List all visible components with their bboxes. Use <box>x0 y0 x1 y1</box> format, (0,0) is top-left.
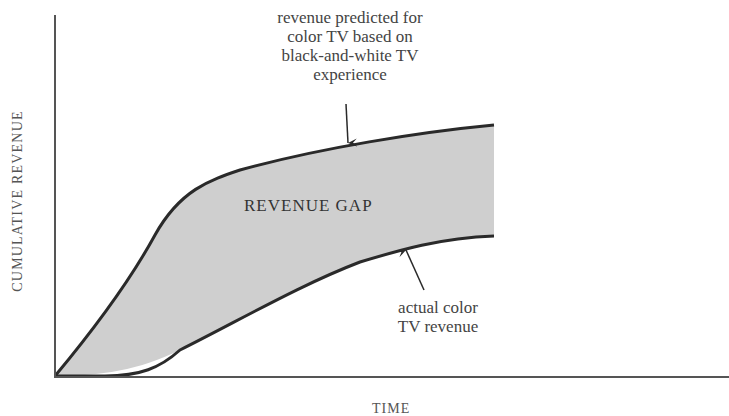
predicted-line-3: black-and-white TV <box>245 46 455 65</box>
predicted-line-1: revenue predicted for <box>245 8 455 27</box>
x-axis-label: TIME <box>372 401 410 416</box>
actual-line-2: TV revenue <box>368 317 508 336</box>
actual-line-1: actual color <box>368 298 508 317</box>
actual-annotation: actual color TV revenue <box>368 298 508 336</box>
predicted-arrow <box>346 104 348 143</box>
predicted-annotation: revenue predicted for color TV based on … <box>245 8 455 84</box>
revenue-gap-label: REVENUE GAP <box>244 196 373 216</box>
actual-arrow <box>406 250 424 290</box>
predicted-line-4: experience <box>245 65 455 84</box>
y-axis-label: CUMULATIVE REVENUE <box>10 91 26 311</box>
predicted-line-2: color TV based on <box>245 27 455 46</box>
